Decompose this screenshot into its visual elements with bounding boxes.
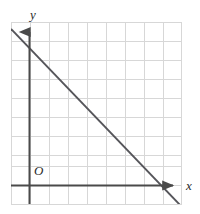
y-axis-label: y: [30, 8, 36, 21]
origin-label: O: [34, 164, 43, 177]
coordinate-plane-figure: y x O: [0, 0, 200, 214]
x-axis-label: x: [186, 179, 192, 192]
plot-svg: [0, 0, 200, 214]
